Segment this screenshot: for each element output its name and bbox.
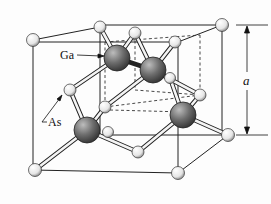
ga-label: Ga bbox=[60, 49, 74, 61]
as-label: As bbox=[48, 116, 61, 128]
lattice-constant-label: a bbox=[243, 74, 250, 87]
gaas-crystal-diagram: Ga As a bbox=[0, 0, 271, 204]
crystal-lattice-drawing bbox=[0, 0, 271, 204]
lattice-dimension bbox=[236, 25, 268, 135]
